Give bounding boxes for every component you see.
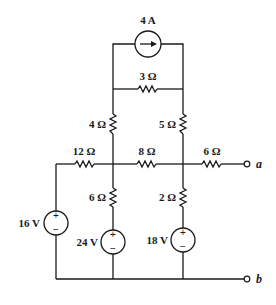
svg-text:a: a: [256, 157, 262, 171]
svg-text:+: +: [110, 229, 116, 240]
svg-text:−: −: [53, 224, 59, 235]
resistor-6ohm-vertical: [110, 188, 116, 207]
resistor-12ohm: 12 Ω: [56, 145, 113, 167]
svg-text:−: −: [110, 243, 116, 254]
svg-text:4 Ω: 4 Ω: [89, 118, 106, 130]
voltage-source-16v: + − 16 V: [19, 164, 69, 279]
resistor-5ohm: 5 Ω: [159, 89, 186, 164]
arrow-right-icon: [151, 41, 157, 47]
svg-text:b: b: [256, 272, 262, 286]
resistor-3ohm: 3 Ω: [113, 70, 183, 92]
right-branch: 2 Ω + − 18 V: [147, 164, 196, 279]
svg-text:16 V: 16 V: [19, 217, 41, 229]
svg-text:3 Ω: 3 Ω: [139, 70, 156, 82]
svg-text:5 Ω: 5 Ω: [159, 118, 176, 130]
terminal-b: [244, 276, 250, 282]
svg-text:18 V: 18 V: [147, 234, 169, 246]
svg-text:6 Ω: 6 Ω: [203, 145, 220, 157]
svg-text:+: +: [180, 227, 186, 238]
center-branch: 6 Ω + − 24 V: [77, 164, 126, 279]
bottom-wire: b: [56, 272, 262, 286]
current-source-label: 4 A: [140, 14, 156, 26]
svg-text:−: −: [180, 241, 186, 252]
circuit-diagram: 4 A 3 Ω 4 Ω 5 Ω 12 Ω 8 Ω 6 Ω: [0, 0, 276, 305]
terminal-a: a: [244, 157, 262, 171]
svg-text:24 V: 24 V: [77, 236, 99, 248]
svg-text:2 Ω: 2 Ω: [159, 191, 176, 203]
resistor-2ohm: [180, 188, 186, 207]
svg-text:8 Ω: 8 Ω: [138, 145, 155, 157]
svg-text:+: +: [53, 210, 59, 221]
svg-text:12 Ω: 12 Ω: [73, 145, 96, 157]
svg-text:6 Ω: 6 Ω: [89, 191, 106, 203]
resistor-6ohm-horizontal: 6 Ω: [183, 145, 244, 167]
resistor-8ohm: 8 Ω: [113, 145, 183, 167]
